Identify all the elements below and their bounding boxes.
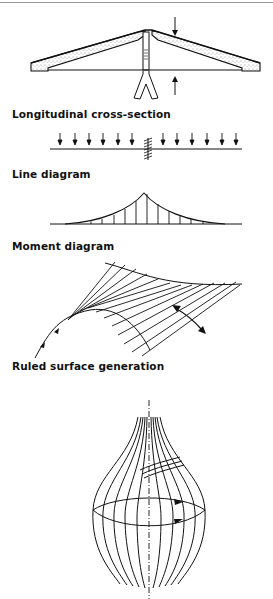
caption-line-diagram: Line diagram	[12, 168, 91, 180]
line-diagram-drawing	[0, 124, 273, 169]
cross-section-drawing	[0, 0, 273, 105]
moment-diagram-drawing	[0, 188, 273, 233]
ruled-surface-drawing	[0, 258, 273, 358]
revolution-surface-drawing	[0, 384, 273, 599]
caption-ruled-surface-generation: Ruled surface generation	[12, 360, 164, 372]
caption-longitudinal-cross-section: Longitudinal cross-section	[12, 108, 171, 120]
caption-moment-diagram: Moment diagram	[12, 240, 114, 252]
